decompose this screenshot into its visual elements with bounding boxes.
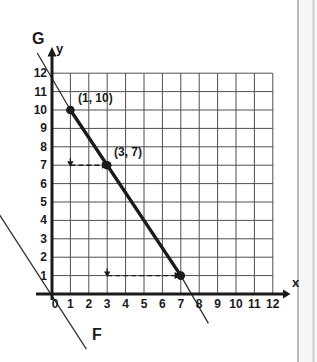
x-tick-label: 10 [229,297,243,311]
x-tick-label: 1 [67,297,74,311]
point-3-7-label: (3, 7) [114,146,142,158]
x-tick-label: 4 [122,297,129,311]
y-tick-label: 3 [40,232,47,246]
x-tick-label: 8 [196,297,203,311]
y-axis-label: y [56,42,63,55]
x-tick-label: 7 [177,297,184,311]
line-g-label: G [32,31,44,47]
y-tick-label: 2 [40,250,47,264]
x-tick-label: 5 [141,297,148,311]
line-g-extension-bottom [181,276,209,324]
y-tick-label: 8 [40,140,47,154]
y-tick-label: 12 [34,66,48,80]
y-tick-label: 4 [40,213,47,227]
x-tick-label: 12 [266,297,280,311]
x-axis-label: x [292,276,299,289]
line-g-extension-top [37,53,70,110]
y-tick-label: 9 [40,121,47,135]
y-tick-label: 10 [34,103,48,117]
y-tick-label: 11 [34,85,47,99]
coordinate-graph-canvas: 0123456789101112123456789101112 [0,0,317,362]
y-tick-label: 1 [40,269,47,283]
x-tick-label: 11 [248,297,261,311]
x-tick-label: 3 [104,297,111,311]
point-1-10-label: (1, 10) [78,92,113,104]
x-tick-label: 0 [52,297,59,311]
x-axis-arrow-icon [283,290,291,299]
point-marker [66,106,75,115]
x-tick-label: 9 [214,297,221,311]
x-tick-label: 2 [85,297,92,311]
y-tick-label: 6 [40,177,47,191]
y-tick-label: 5 [40,195,47,209]
point-marker [103,161,112,170]
y-tick-label: 7 [40,158,47,172]
worksheet-figure: 0123456789101112123456789101112 G F y x … [0,0,317,362]
x-tick-label: 6 [159,297,166,311]
line-f-label: F [92,327,102,343]
point-marker [177,271,186,280]
